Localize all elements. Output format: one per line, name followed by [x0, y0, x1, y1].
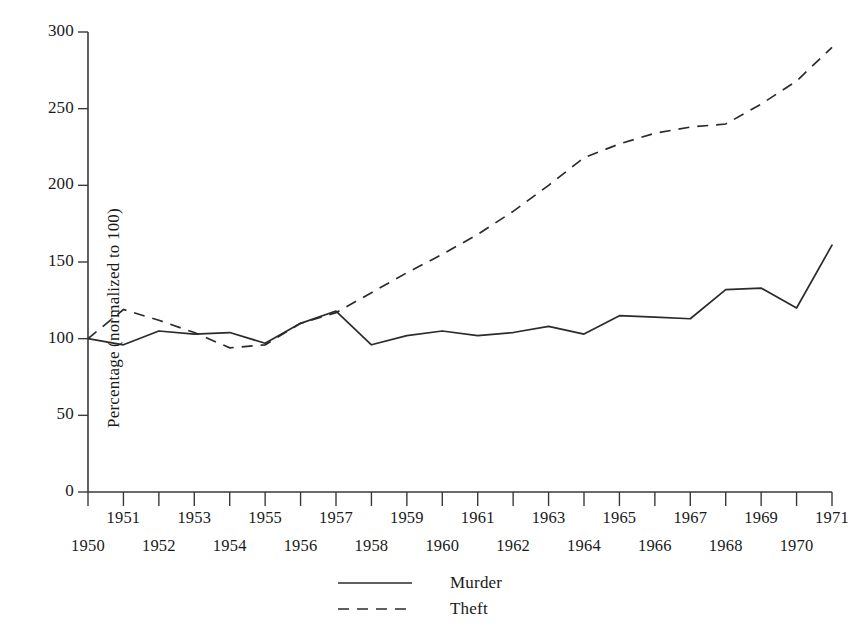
x-tick-label: 1954	[213, 536, 247, 556]
x-tick-label: 1956	[284, 536, 318, 556]
x-tick-label: 1966	[638, 536, 672, 556]
x-tick-label: 1958	[355, 536, 389, 556]
series-line-theft	[88, 47, 832, 348]
x-tick-label: 1952	[142, 536, 176, 556]
legend-swatch-dashed-icon	[336, 603, 414, 615]
x-tick-label: 1971	[815, 508, 849, 528]
x-tick-label: 1962	[496, 536, 530, 556]
x-tick-label: 1951	[107, 508, 141, 528]
x-tick-label: 1970	[780, 536, 814, 556]
axes	[88, 32, 832, 492]
chart-figure: Percentage (normalized to 100) 050100150…	[0, 0, 860, 636]
legend-swatch-solid-icon	[336, 577, 414, 589]
x-tick-label: 1969	[744, 508, 778, 528]
x-tick-label: 1967	[673, 508, 707, 528]
y-axis-ticks	[78, 32, 88, 492]
x-tick-label: 1957	[319, 508, 353, 528]
series-line-murder	[88, 245, 832, 345]
x-tick-label: 1964	[567, 536, 601, 556]
x-tick-label: 1965	[603, 508, 637, 528]
x-tick-label: 1955	[248, 508, 282, 528]
x-tick-label: 1950	[71, 536, 105, 556]
x-tick-label: 1959	[390, 508, 424, 528]
x-tick-label: 1953	[177, 508, 211, 528]
x-tick-label: 1961	[461, 508, 495, 528]
x-tick-label: 1960	[425, 536, 459, 556]
chart-legend: Murder Theft	[336, 570, 576, 622]
x-axis-ticks	[88, 492, 832, 506]
legend-label-theft: Theft	[450, 599, 488, 619]
x-tick-label: 1968	[709, 536, 743, 556]
x-tick-label: 1963	[532, 508, 566, 528]
legend-label-murder: Murder	[450, 573, 502, 593]
legend-item-theft: Theft	[336, 596, 576, 622]
legend-item-murder: Murder	[336, 570, 576, 596]
